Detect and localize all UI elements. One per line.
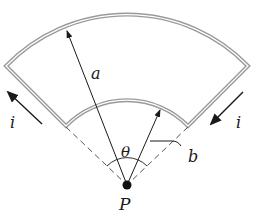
- label-P: P: [118, 194, 131, 214]
- label-i-right: i: [236, 113, 241, 132]
- center-point-P: [123, 181, 132, 190]
- label-b: b: [188, 147, 198, 166]
- label-i-left: i: [10, 113, 15, 132]
- wire-loop: [6, 15, 248, 126]
- dashed-radius-left: [66, 127, 127, 185]
- label-a: a: [91, 64, 101, 83]
- radius-a-arrow: [67, 31, 127, 185]
- annular-sector-loop-diagram: a b θ P i i: [0, 0, 261, 217]
- radius-b-arrow: [127, 110, 160, 185]
- dashed-radius-right: [127, 127, 188, 185]
- label-theta: θ: [121, 143, 130, 161]
- b-leader-line: [150, 141, 181, 146]
